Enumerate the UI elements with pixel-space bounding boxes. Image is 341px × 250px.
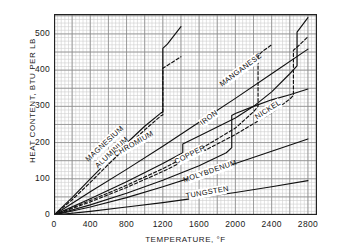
y-axis-tick-labels: 0100200300400500 [22,0,50,250]
y-tick-label: 100 [24,173,50,183]
x-tick-label: 800 [119,219,134,229]
x-axis-title: TEMPERATURE, °F [54,235,317,244]
y-tick-label: 300 [24,100,50,110]
x-tick-label: 2800 [298,219,318,229]
x-tick-label: 400 [83,219,98,229]
chart-canvas: MAGNESIUMALUMINUMCHROMIUMIRONMANGANESENI… [54,14,317,215]
y-tick-label: 200 [24,137,50,147]
x-tick-label: 2000 [225,219,245,229]
y-tick-label: 0 [24,209,50,219]
chart-figure: HEAT CONTENT, BTU PER LB 010020030040050… [0,0,341,250]
plot-area: MAGNESIUMALUMINUMCHROMIUMIRONMANGANESENI… [54,14,317,215]
x-axis-tick-labels: 040080012001600200024002800 [0,219,341,233]
y-tick-label: 500 [24,28,50,38]
x-tick-label: 1600 [189,219,209,229]
plot-background [54,14,317,215]
x-tick-label: 2400 [262,219,282,229]
x-tick-label: 0 [51,219,56,229]
y-tick-label: 400 [24,64,50,74]
x-tick-label: 1200 [153,219,173,229]
